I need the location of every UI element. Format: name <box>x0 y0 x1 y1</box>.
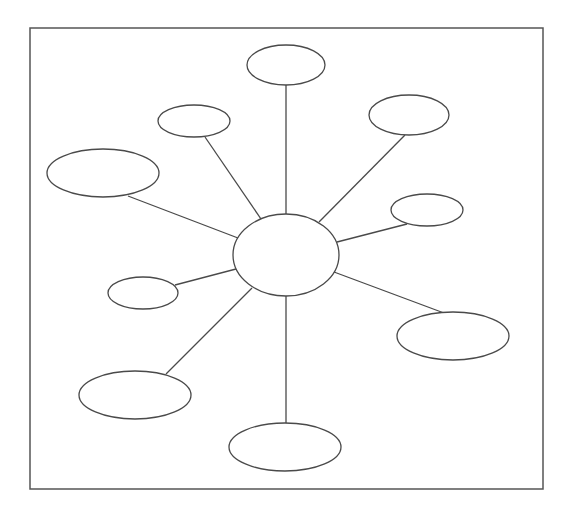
node-ellipse-upper-left[interactable] <box>158 105 230 137</box>
center-ellipse[interactable] <box>233 214 339 296</box>
connector-upper-left <box>205 137 261 219</box>
connector-lower-right <box>334 272 444 313</box>
node-top[interactable] <box>247 45 325 85</box>
node-ellipse-right[interactable] <box>391 194 463 226</box>
node-left-small[interactable] <box>108 277 178 309</box>
node-left[interactable] <box>47 149 159 197</box>
connector-left <box>128 196 238 238</box>
node-right[interactable] <box>391 194 463 226</box>
node-upper-left[interactable] <box>158 105 230 137</box>
node-ellipse-left[interactable] <box>47 149 159 197</box>
node-ellipse-lower-right[interactable] <box>397 312 509 360</box>
node-ellipse-top[interactable] <box>247 45 325 85</box>
node-ellipse-bottom[interactable] <box>229 423 341 471</box>
node-ellipse-upper-right[interactable] <box>369 95 449 135</box>
connector-left-small <box>175 269 236 285</box>
center-node[interactable] <box>233 214 339 296</box>
node-lower-right[interactable] <box>397 312 509 360</box>
node-ellipse-left-small[interactable] <box>108 277 178 309</box>
node-bottom[interactable] <box>229 423 341 471</box>
node-upper-right[interactable] <box>369 95 449 135</box>
connector-lower-left <box>166 288 252 374</box>
node-ellipse-lower-left[interactable] <box>79 371 191 419</box>
node-lower-left[interactable] <box>79 371 191 419</box>
connector-right <box>337 224 407 242</box>
spider-diagram <box>0 0 569 513</box>
